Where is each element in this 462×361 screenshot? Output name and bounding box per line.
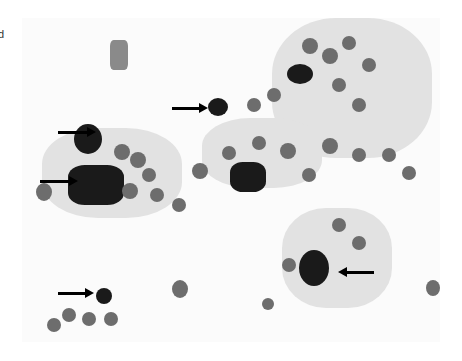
arrow-marker [58, 292, 86, 295]
arrow-marker [346, 271, 374, 274]
panel-label: d [0, 28, 4, 40]
arrow-marker [40, 180, 70, 183]
arrow-marker [172, 107, 200, 110]
arrow-marker [58, 131, 88, 134]
